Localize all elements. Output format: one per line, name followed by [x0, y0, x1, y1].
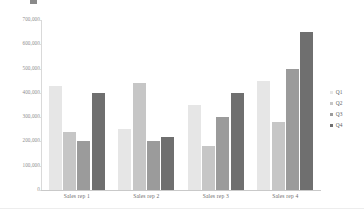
- legend-label: Q2: [336, 101, 343, 106]
- y-axis-tick-label: 600,000: [2, 41, 40, 46]
- x-axis-line: [41, 190, 321, 191]
- chart-legend: Q1Q2Q3Q4: [330, 87, 362, 131]
- bottom-divider: [0, 208, 364, 209]
- legend-item-q3[interactable]: Q3: [330, 109, 362, 120]
- y-axis-tick-label: 300,000: [2, 114, 40, 119]
- bar-q3[interactable]: [216, 117, 229, 190]
- x-axis-category-label: Sales rep 1: [42, 193, 112, 199]
- y-axis-tick-labels: 700,000600,000500,000400,000300,000200,0…: [0, 0, 40, 213]
- bar-q2[interactable]: [272, 122, 285, 190]
- legend-item-q1[interactable]: Q1: [330, 87, 362, 98]
- legend-swatch-icon: [330, 91, 333, 94]
- bar-q2[interactable]: [63, 132, 76, 190]
- x-axis-category-labels: Sales rep 1Sales rep 2Sales rep 3Sales r…: [42, 193, 320, 199]
- bar-q1[interactable]: [49, 86, 62, 190]
- legend-item-q2[interactable]: Q2: [330, 98, 362, 109]
- bar-q1[interactable]: [118, 129, 131, 190]
- y-axis-tick-label: 400,000: [2, 90, 40, 95]
- legend-swatch-icon: [330, 124, 333, 127]
- bar-q4[interactable]: [161, 137, 174, 190]
- bar-q1[interactable]: [257, 81, 270, 190]
- bar-group: [251, 20, 321, 190]
- y-axis-tick-label: 0: [2, 187, 40, 192]
- bar-q3[interactable]: [147, 141, 160, 190]
- y-axis-tick-label: 500,000: [2, 66, 40, 71]
- legend-item-q4[interactable]: Q4: [330, 120, 362, 131]
- bar-group: [181, 20, 251, 190]
- y-axis-tick-label: 200,000: [2, 138, 40, 143]
- bar-q2[interactable]: [133, 83, 146, 190]
- bar-chart: 700,000600,000500,000400,000300,000200,0…: [0, 0, 364, 213]
- bar-group: [112, 20, 182, 190]
- legend-label: Q4: [336, 123, 343, 128]
- bar-q3[interactable]: [286, 69, 299, 190]
- legend-label: Q1: [336, 90, 343, 95]
- x-axis-category-label: Sales rep 4: [251, 193, 321, 199]
- legend-swatch-icon: [330, 113, 333, 116]
- bar-group: [42, 20, 112, 190]
- legend-label: Q3: [336, 112, 343, 117]
- bar-q4[interactable]: [300, 32, 313, 190]
- bar-groups: [42, 20, 320, 190]
- bar-q3[interactable]: [77, 141, 90, 190]
- bar-q4[interactable]: [231, 93, 244, 190]
- legend-swatch-icon: [330, 102, 333, 105]
- bar-q1[interactable]: [188, 105, 201, 190]
- bar-q4[interactable]: [92, 93, 105, 190]
- x-axis-category-label: Sales rep 2: [112, 193, 182, 199]
- y-axis-tick-label: 700,000: [2, 17, 40, 22]
- y-axis-tick-label: 100,000: [2, 163, 40, 168]
- x-axis-category-label: Sales rep 3: [181, 193, 251, 199]
- bar-q2[interactable]: [202, 146, 215, 190]
